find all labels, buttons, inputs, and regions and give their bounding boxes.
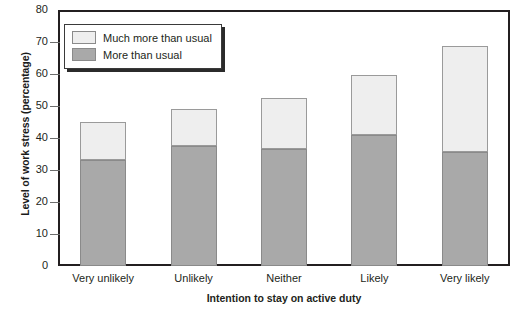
y-tick-mark <box>50 42 60 43</box>
bar-segment-more-than-usual <box>261 149 307 266</box>
y-tick-label: 70 <box>14 36 48 47</box>
y-tick-label: 0 <box>14 260 48 271</box>
legend-swatch-icon <box>72 31 96 44</box>
legend-swatch-icon <box>72 48 96 61</box>
bar-segment-more-than-usual <box>171 146 217 266</box>
bar-segment-more-than-usual <box>442 152 488 266</box>
x-tick-label: Very likely <box>410 272 520 284</box>
y-tick-mark <box>50 106 60 107</box>
y-tick-label: 40 <box>14 132 48 143</box>
chart-legend: Much more than usualMore than usual <box>64 24 222 69</box>
y-axis-tick-labels: 01020304050607080 <box>8 0 48 276</box>
y-tick-mark <box>50 170 60 171</box>
bar-segment-much-more-than-usual <box>80 122 126 160</box>
legend-label: More than usual <box>103 49 182 61</box>
bar-very-likely <box>442 10 488 266</box>
bar-segment-more-than-usual <box>351 135 397 266</box>
y-tick-mark <box>50 234 60 235</box>
y-tick-label: 50 <box>14 100 48 111</box>
stacked-bar-chart: Level of work stress (percentage) 010203… <box>0 0 520 311</box>
legend-item: More than usual <box>72 46 212 63</box>
bar-segment-much-more-than-usual <box>442 46 488 152</box>
legend-item: Much more than usual <box>72 29 212 46</box>
bar-segment-much-more-than-usual <box>261 98 307 149</box>
bar-segment-more-than-usual <box>80 160 126 266</box>
x-axis-title: Intention to stay on active duty <box>58 292 510 304</box>
bar-likely <box>351 10 397 266</box>
y-tick-label: 60 <box>14 68 48 79</box>
y-tick-mark <box>50 74 60 75</box>
y-tick-label: 30 <box>14 164 48 175</box>
y-tick-mark <box>50 138 60 139</box>
bar-segment-much-more-than-usual <box>171 109 217 147</box>
bar-neither <box>261 10 307 266</box>
y-tick-mark <box>50 202 60 203</box>
y-tick-label: 80 <box>14 4 48 15</box>
legend-label: Much more than usual <box>103 32 212 44</box>
bar-segment-much-more-than-usual <box>351 75 397 135</box>
y-tick-label: 10 <box>14 228 48 239</box>
y-tick-label: 20 <box>14 196 48 207</box>
